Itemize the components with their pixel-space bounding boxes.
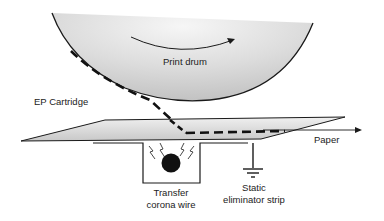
print-drum-label: Print drum xyxy=(163,56,207,67)
arrowhead-icon xyxy=(355,127,362,133)
paper-label: Paper xyxy=(314,134,339,145)
ep-cartridge-label: EP Cartridge xyxy=(34,96,88,107)
corona-wire-icon xyxy=(162,154,181,173)
transfer-corona-label-line2: corona wire xyxy=(146,199,195,210)
static-strip-label-line2: eliminator strip xyxy=(223,194,285,205)
static-strip-label-line1: Static xyxy=(242,182,266,193)
ground-icon xyxy=(243,169,263,177)
paper-sheet: Paper xyxy=(21,117,362,145)
transfer-corona-label-line1: Transfer xyxy=(153,187,188,198)
static-eliminator-strip: Static eliminator strip xyxy=(223,143,285,205)
laser-printer-diagram: Print drum EP Cartridge Paper Transfer c… xyxy=(0,0,384,221)
print-drum: Print drum xyxy=(52,13,313,101)
